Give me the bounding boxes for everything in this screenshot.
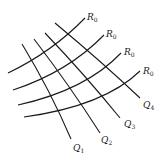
r-curve-3	[18, 53, 121, 105]
q-label-2-sub: 2	[108, 139, 112, 146]
r-curve-group	[8, 18, 140, 117]
r-curve-2	[13, 35, 104, 90]
r-label-2: R0	[105, 29, 117, 40]
r-label-3: R0	[123, 47, 135, 58]
q-labels: Q1 Q2 Q3 Q4	[73, 100, 154, 154]
r-curve-1	[8, 18, 85, 73]
r-label-4: R0	[142, 66, 154, 77]
curvilinear-grid-diagram: R0 R0 R0 R0 Q1 Q2 Q3 Q4	[0, 0, 166, 165]
q-curve-4	[55, 23, 140, 98]
q-label-4: Q4	[143, 100, 154, 111]
q-label-3: Q3	[124, 119, 135, 130]
q-label-4-sub: 4	[150, 104, 154, 111]
r-label-2-sub: 0	[113, 33, 117, 40]
q-label-1-sub: 1	[80, 147, 84, 154]
r-label-1-sub: 0	[94, 16, 98, 23]
q-label-2: Q2	[101, 135, 112, 146]
r-label-1: R0	[86, 12, 98, 23]
q-label-1: Q1	[73, 143, 84, 154]
q-curve-group	[22, 23, 140, 139]
r-labels: R0 R0 R0 R0	[86, 12, 154, 77]
q-label-3-sub: 3	[131, 123, 135, 130]
r-label-3-sub: 0	[131, 51, 135, 58]
r-label-4-sub: 0	[150, 70, 154, 77]
